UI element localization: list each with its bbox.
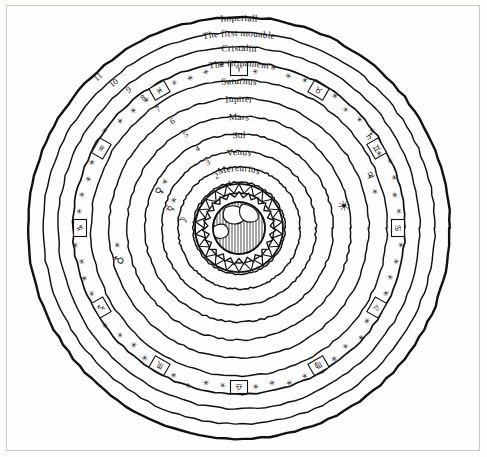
zodiac-sign-2: ♉ — [308, 80, 329, 100]
fixed-star: ✳ — [252, 382, 259, 392]
fixed-star: ✳ — [75, 208, 85, 215]
fixed-star: ✳ — [361, 316, 372, 326]
luna-glyph: ☽ — [175, 216, 190, 228]
fixed-star: ✳ — [115, 329, 126, 340]
fixed-star: ✳ — [380, 289, 391, 298]
fixed-star: ✳ — [329, 353, 339, 364]
fixed-star: ✳ — [186, 73, 195, 84]
zodiac-sign-9: ♐ — [91, 297, 111, 318]
fixed-star: ✳ — [115, 116, 126, 127]
sphere-label-7: Mars — [228, 112, 249, 123]
fixed-star: ✳ — [71, 242, 81, 249]
zodiac-sign-4: ♋ — [392, 220, 405, 237]
fixed-star: ✳ — [77, 257, 87, 265]
ring-number-6: 6 — [168, 115, 178, 126]
fixed-star: ✳ — [355, 332, 366, 343]
fixed-star: ✳ — [330, 91, 340, 102]
fixed-star: ✳ — [184, 380, 193, 391]
mars-glyph: ♂ — [112, 254, 127, 267]
fixed-star: ✳ — [170, 78, 179, 89]
sphere-label-9: Venus — [226, 147, 252, 158]
fixed-star: ✳ — [169, 370, 178, 381]
zodiac-sign-10: ♑ — [74, 220, 87, 237]
sphere-label-6: Iupiter — [225, 94, 254, 105]
mercury-glyph: ☿ — [164, 204, 176, 213]
fixed-star: ✳ — [269, 63, 277, 73]
zodiac-symbol: ♑ — [75, 224, 85, 232]
fixed-star: ✳ — [128, 339, 139, 350]
planet-companion-star: ✳ — [160, 177, 171, 187]
fixed-star: ✳ — [202, 67, 210, 77]
fixed-star: ✳ — [202, 377, 210, 387]
zodiac-sign-7: ♎ — [231, 381, 248, 394]
jupiter-glyph: ♃ — [364, 169, 378, 181]
sphere-label-10: Mercurius — [217, 163, 262, 177]
fixed-star: ✳ — [340, 340, 351, 351]
ring-number-9: 9 — [124, 84, 134, 94]
sphere-label-3: Cristalin — [221, 43, 257, 54]
fixed-star: ✳ — [300, 370, 309, 381]
sphere-label-1: Imperiall — [220, 13, 258, 24]
ring-number-11: 11 — [91, 70, 104, 83]
fixed-star: ✳ — [284, 71, 293, 82]
fixed-star: ✳ — [340, 104, 351, 115]
cosmos-diagram: ♈♉♊♋♌♍♎♏♐♑♒♓✳✳✳✳✳✳✳✳✳✳✳✳✳✳✳✳✳✳✳✳✳✳✳✳✳✳✳✳… — [0, 0, 487, 457]
element-tooth — [262, 254, 272, 265]
zodiac-sign-8: ♏ — [149, 356, 170, 376]
fixed-star: ✳ — [77, 191, 87, 199]
venus-glyph: ♀ — [153, 185, 166, 196]
sphere-label-5: Saturnus — [221, 76, 258, 87]
fixed-star: ✳ — [394, 208, 404, 215]
fixed-star: ✳ — [385, 273, 396, 282]
earth-group — [195, 184, 283, 272]
zodiac-sign-12: ♓ — [149, 80, 170, 100]
ring-number-10: 10 — [107, 76, 120, 89]
fixed-star: ✳ — [87, 158, 98, 167]
zodiac-sign-11: ♒ — [91, 138, 111, 159]
planet-companion-star: ✳ — [113, 241, 123, 249]
ring-number-5: 5 — [181, 129, 190, 140]
zodiac-symbol: ♋ — [393, 224, 403, 232]
fixed-star: ✳ — [219, 380, 226, 390]
diagram-svg: ♈♉♊♋♌♍♎♏♐♑♒♓✳✳✳✳✳✳✳✳✳✳✳✳✳✳✳✳✳✳✳✳✳✳✳✳✳✳✳✳… — [0, 0, 487, 457]
fixed-star: ✳ — [300, 75, 309, 86]
sphere-label-8: Sol — [232, 130, 246, 140]
zodiac-symbol: ♎ — [235, 382, 243, 392]
fixed-star: ✳ — [86, 289, 97, 298]
fixed-star: ✳ — [140, 352, 150, 363]
fixed-star: ✳ — [396, 241, 406, 248]
fixed-star: ✳ — [354, 114, 365, 125]
zodiac-sign-6: ♍ — [308, 356, 329, 376]
fixed-star: ✳ — [99, 125, 110, 135]
sphere-label-2: The first mouable — [202, 28, 276, 41]
planet-companion-star: ✳ — [169, 196, 180, 205]
fixed-star: ✳ — [83, 175, 94, 184]
element-tooth — [206, 254, 216, 265]
fixed-star: ✳ — [389, 191, 399, 199]
planet-companion-star: ✳ — [370, 187, 380, 195]
fixed-star: ✳ — [268, 378, 276, 388]
fixed-star: ✳ — [128, 105, 139, 116]
ring-number-3: 3 — [204, 157, 212, 168]
page: ♈♉♊♋♌♍♎♏♐♑♒♓✳✳✳✳✳✳✳✳✳✳✳✳✳✳✳✳✳✳✳✳✳✳✳✳✳✳✳✳… — [0, 0, 487, 457]
fixed-star: ✳ — [384, 156, 395, 165]
fixed-star: ✳ — [391, 257, 401, 265]
